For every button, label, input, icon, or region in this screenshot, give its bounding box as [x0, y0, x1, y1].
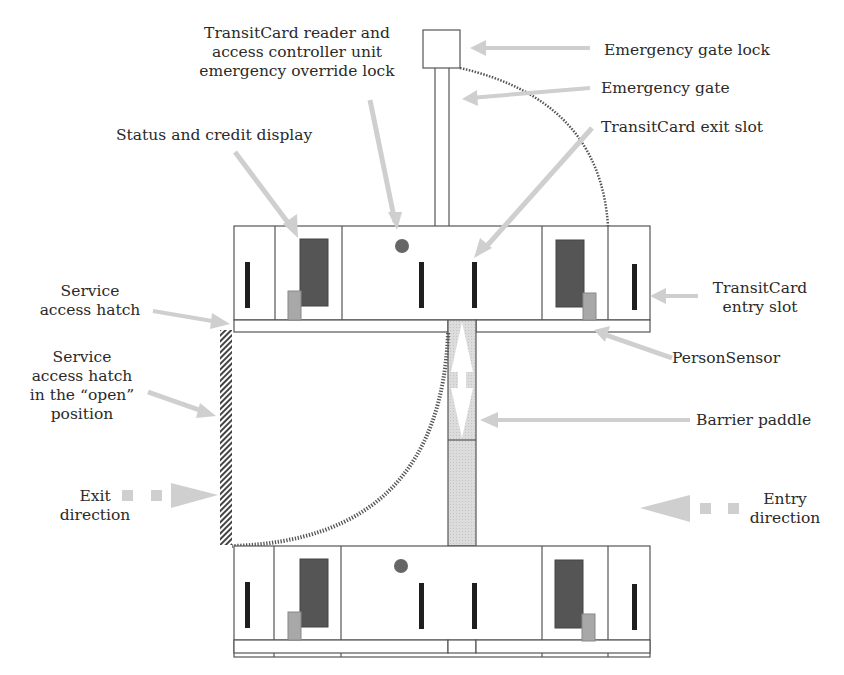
exit-slot-left: [245, 262, 250, 308]
label-line: entry slot: [700, 298, 820, 317]
label-line: access hatch: [22, 367, 142, 386]
label-line: emergency override lock: [186, 62, 408, 81]
status-display-left: [300, 239, 328, 306]
label-line: access hatch: [30, 301, 150, 320]
label-exit-direction: Exit direction: [50, 487, 140, 525]
turnstile-diagram: [0, 0, 844, 675]
person-sensor-left: [288, 291, 301, 320]
label-line: Service: [22, 348, 142, 367]
top-gate-unit: [234, 226, 650, 332]
label-reader-override-lock: TransitCard reader and access controller…: [186, 24, 408, 81]
exit-slot-center-right: [472, 262, 477, 308]
label-service-access-hatch: Service access hatch: [30, 282, 150, 320]
label-emergency-gate: Emergency gate: [601, 79, 730, 98]
label-service-hatch-open: Service access hatch in the “open” posit…: [22, 348, 142, 424]
hatch-swing-arc: [232, 333, 448, 546]
status-display-right: [556, 240, 584, 307]
label-line: TransitCard reader and: [186, 24, 408, 43]
label-transitcard-entry-slot: TransitCard entry slot: [700, 279, 820, 317]
bottom-gate-unit: [234, 546, 650, 657]
label-line: Service: [30, 282, 150, 301]
label-line: direction: [740, 509, 830, 528]
label-line: Exit: [50, 487, 140, 506]
person-sensor-right: [583, 293, 596, 320]
entry-direction-arrow: [640, 495, 739, 522]
label-entry-direction: Entry direction: [740, 490, 830, 528]
label-barrier-paddle: Barrier paddle: [696, 411, 811, 430]
entry-slot-right: [632, 264, 637, 310]
override-lock-dot: [395, 239, 409, 253]
label-line: position: [22, 405, 142, 424]
barrier-paddle: [448, 320, 476, 546]
label-line: Entry: [740, 490, 830, 509]
label-person-sensor: PersonSensor: [672, 349, 780, 368]
service-access-hatch-open: [220, 330, 232, 545]
label-line: in the “open”: [22, 386, 142, 405]
label-line: direction: [50, 506, 140, 525]
label-transitcard-exit-slot: TransitCard exit slot: [601, 118, 763, 137]
exit-slot-center-left: [419, 262, 424, 308]
emergency-gate-lock: [423, 30, 460, 68]
label-line: access controller unit: [186, 43, 408, 62]
label-emergency-gate-lock: Emergency gate lock: [604, 41, 770, 60]
label-line: TransitCard: [700, 279, 820, 298]
emergency-gate: [435, 68, 449, 226]
label-status-credit-display: Status and credit display: [116, 126, 312, 145]
